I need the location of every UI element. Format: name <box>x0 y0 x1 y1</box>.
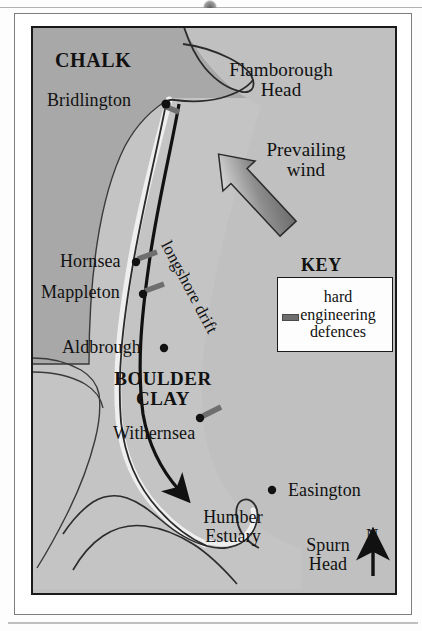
boulder-clay-region-label: BOULDER CLAY <box>103 369 223 409</box>
key-entry-line-1: hard <box>284 288 392 306</box>
dot-aldbrough <box>160 344 168 352</box>
settlement-label-aldbrough: Aldbrough <box>62 338 141 357</box>
dot-bridlington <box>161 99 170 108</box>
scan-artifact-bottom-line <box>8 622 418 624</box>
settlement-label-hornsea: Hornsea <box>60 252 121 271</box>
key-legend-box: hard engineering defences <box>277 277 393 352</box>
key-legend-content: hard engineering defences <box>278 288 392 342</box>
dot-mappleton <box>139 290 147 298</box>
prevailing-wind-label: Prevailing wind <box>241 140 371 180</box>
key-title: KEY <box>301 256 342 275</box>
scan-artifact-blob <box>203 0 217 8</box>
holderness-coast-map: CHALK Bridlington Flamborough Head Preva… <box>31 26 397 595</box>
key-entry-line-2: engineering <box>284 306 392 324</box>
flamborough-head-label: Flamborough Head <box>211 60 351 100</box>
settlement-label-easington: Easington <box>288 481 361 500</box>
humber-estuary-label: Humber Estuary <box>178 508 288 545</box>
spurn-head-label: Spurn Head <box>289 536 367 573</box>
dot-easington <box>268 486 276 494</box>
settlement-label-mappleton: Mappleton <box>41 283 120 302</box>
key-entry-line-3: defences <box>284 323 392 341</box>
defence-symbol-icon <box>282 314 299 321</box>
settlement-label-withernsea: Withernsea <box>113 424 195 443</box>
compass-north-label: N <box>366 526 378 544</box>
chalk-region-label: CHALK <box>55 50 131 71</box>
dot-withernsea <box>196 414 204 422</box>
scanned-page: CHALK Bridlington Flamborough Head Preva… <box>0 0 422 631</box>
dot-hornsea <box>132 258 140 266</box>
settlement-label-bridlington: Bridlington <box>47 91 131 110</box>
